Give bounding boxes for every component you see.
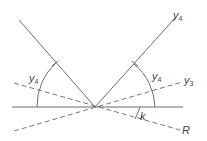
ray-upper-left: [19, 20, 95, 107]
ray-upper-right: [95, 18, 175, 107]
label-angle-left: y4: [28, 72, 39, 85]
label-ray-y3: y3: [183, 74, 194, 87]
label-angle-right: y4: [151, 70, 162, 83]
label-angle-k: k: [140, 110, 146, 122]
angle-diagram: y4 y4 y4 y3 k R: [0, 0, 207, 141]
arc-angle-left: [37, 63, 56, 107]
label-ray-r: R: [182, 124, 190, 136]
label-ray-upper-right: y4: [172, 9, 183, 22]
